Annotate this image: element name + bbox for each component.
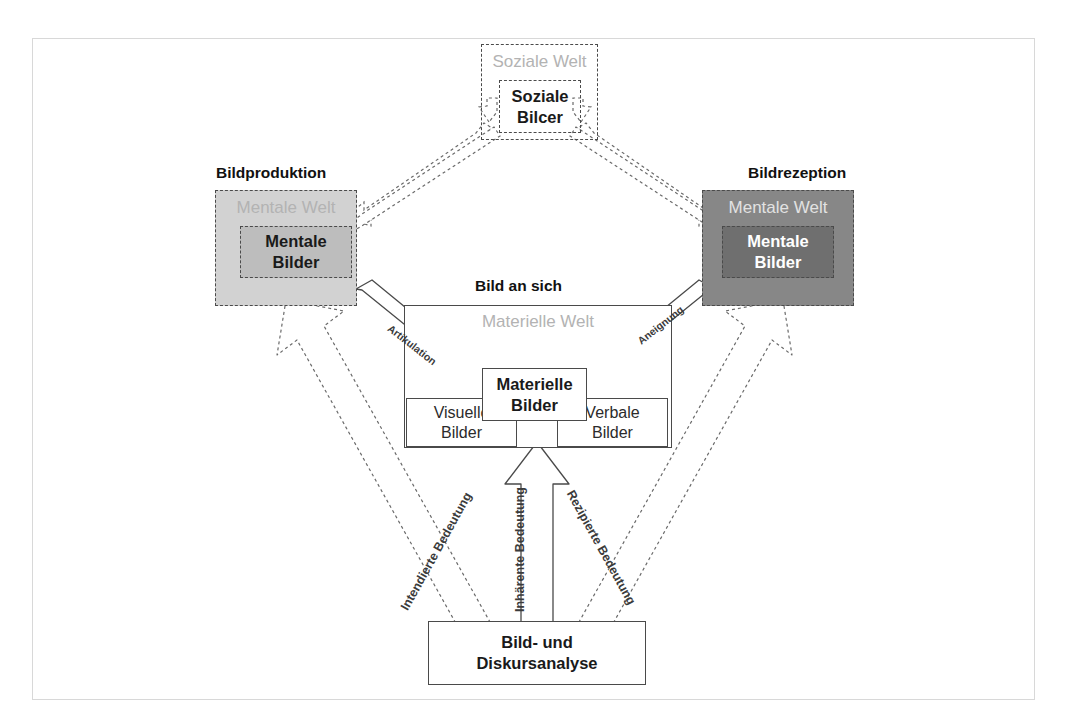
heading-bildproduktion: Bildproduktion — [216, 164, 326, 182]
diagram-canvas: Soziale Welt Soziale Bilcer Bildprodukti… — [0, 0, 1066, 722]
mentale-bilder-rezeption-line2: Bilder — [755, 253, 802, 271]
mentale-welt-produktion-label: Mentale Welt — [215, 198, 357, 218]
arrow-soziale-to-mentale-left — [345, 123, 492, 226]
analyse-line1: Bild- und — [501, 633, 572, 651]
soziale-welt-label: Soziale Welt — [481, 52, 598, 72]
materielle-welt-label: Materielle Welt — [404, 312, 672, 332]
label-inhaerente-bedeutung: Inhärente Bedeutung — [513, 487, 527, 612]
mentale-bilder-rezeption-line1: Mentale — [747, 232, 808, 250]
verbale-bilder-line1: Verbale — [585, 404, 639, 421]
soziale-bilder-line1: Soziale — [512, 87, 569, 105]
mentale-bilder-produktion-line1: Mentale — [265, 232, 326, 250]
materielle-bilder-line2: Bilder — [511, 396, 558, 414]
mentale-welt-rezeption-label: Mentale Welt — [702, 198, 854, 218]
soziale-bilder-box[interactable]: Soziale Bilcer — [499, 80, 581, 133]
mentale-bilder-rezeption-box[interactable]: Mentale Bilder — [722, 226, 834, 278]
heading-bild-an-sich: Bild an sich — [475, 277, 562, 295]
mentale-bilder-produktion-line2: Bilder — [273, 253, 320, 271]
visuelle-bilder-line1: Visuelle — [434, 404, 490, 421]
analyse-line2: Diskursanalyse — [476, 654, 597, 672]
visuelle-bilder-line2: Bilder — [441, 424, 482, 441]
materielle-bilder-line1: Materielle — [496, 375, 572, 393]
arrow-mentale-left-to-soziale — [352, 98, 500, 232]
heading-bildrezeption: Bildrezeption — [748, 164, 846, 182]
bild-und-diskursanalyse-box[interactable]: Bild- und Diskursanalyse — [428, 621, 646, 685]
mentale-bilder-produktion-box[interactable]: Mentale Bilder — [240, 226, 352, 278]
verbale-bilder-line2: Bilder — [592, 424, 633, 441]
materielle-bilder-box[interactable]: Materielle Bilder — [482, 368, 587, 421]
soziale-bilder-line2: Bilcer — [517, 108, 563, 126]
